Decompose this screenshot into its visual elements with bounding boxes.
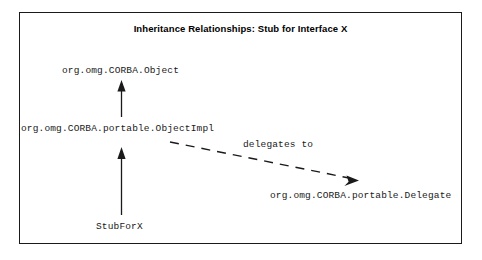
edge-label-delegates-to: delegates to bbox=[243, 139, 313, 150]
page-title: Inheritance Relationships: Stub for Inte… bbox=[19, 23, 462, 34]
node-object-impl: org.omg.CORBA.portable.ObjectImpl bbox=[21, 123, 214, 134]
node-stub-for-x: StubForX bbox=[96, 221, 143, 232]
node-delegate: org.omg.CORBA.portable.Delegate bbox=[270, 190, 451, 201]
node-corba-object: org.omg.CORBA.Object bbox=[62, 65, 179, 76]
diagram-canvas: Inheritance Relationships: Stub for Inte… bbox=[0, 0, 482, 260]
